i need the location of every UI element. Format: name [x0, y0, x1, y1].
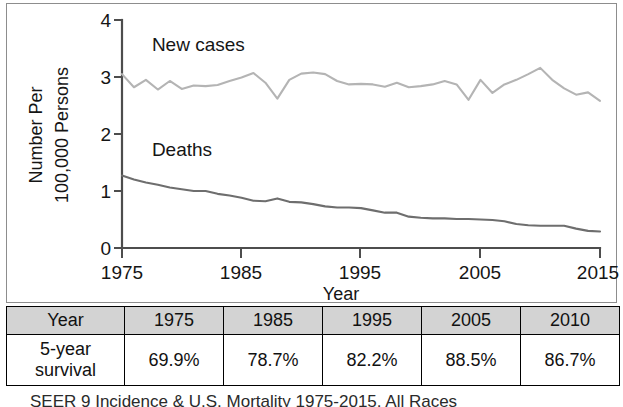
table-header-2010: 2010 [521, 307, 620, 335]
table-row-label-line1: 5-year [7, 339, 124, 360]
x-tick-label-1985: 1985 [220, 262, 262, 283]
chart-svg: Number Per 100,000 Persons 4 3 2 1 0 [0, 0, 623, 303]
y-tick-label-4: 4 [100, 10, 111, 31]
series-line-new-cases [122, 68, 600, 101]
series-line-deaths [122, 176, 600, 232]
table-header-2005: 2005 [422, 307, 521, 335]
table-cell-1985: 78.7% [224, 335, 323, 386]
table-cell-2010: 86.7% [521, 335, 620, 386]
y-tick-label-1: 1 [100, 181, 111, 202]
x-tick-label-2015: 2015 [577, 262, 619, 283]
series-label-new-cases: New cases [152, 34, 245, 55]
line-chart: Number Per 100,000 Persons 4 3 2 1 0 [0, 0, 623, 303]
table-cell-2005: 88.5% [422, 335, 521, 386]
table-header-1995: 1995 [323, 307, 422, 335]
table-row: 5-year survival 69.9% 78.7% 82.2% 88.5% … [7, 335, 620, 386]
x-axis-title: Year [323, 284, 359, 303]
table-header-year: Year [7, 307, 125, 335]
table-header-row: Year 1975 1985 1995 2005 2010 [7, 307, 620, 335]
x-tick-label-2005: 2005 [459, 262, 501, 283]
series-label-deaths: Deaths [152, 139, 212, 160]
y-tick-label-0: 0 [100, 238, 111, 259]
x-tick-label-1995: 1995 [339, 262, 381, 283]
y-tick-label-2: 2 [100, 124, 111, 145]
table-header-1975: 1975 [125, 307, 224, 335]
survival-table: Year 1975 1985 1995 2005 2010 5-year sur… [6, 306, 620, 386]
y-axis-title-line2: 100,000 Persons [52, 67, 72, 203]
table-cell-1975: 69.9% [125, 335, 224, 386]
y-tick-label-3: 3 [100, 67, 111, 88]
y-axis-title-line1: Number Per [26, 86, 46, 183]
table-cell-1995: 82.2% [323, 335, 422, 386]
x-tick-label-1975: 1975 [101, 262, 143, 283]
figure-panel: Number Per 100,000 Persons 4 3 2 1 0 [0, 0, 623, 407]
table-header-1985: 1985 [224, 307, 323, 335]
table-row-label: 5-year survival [7, 335, 125, 386]
table-row-label-line2: survival [7, 360, 124, 381]
source-caption: SEER 9 Incidence & U.S. Mortality 1975-2… [30, 392, 457, 407]
